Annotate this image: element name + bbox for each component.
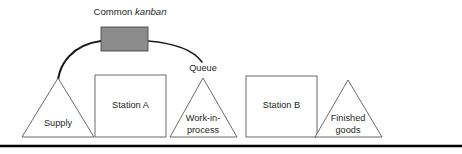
figure-title: Common kanban: [93, 6, 166, 17]
figure-title-italic: kanban: [135, 6, 166, 17]
figure-title-regular: Common: [93, 6, 135, 17]
node-finished-goods-label-line1: Finished: [331, 113, 366, 123]
node-work-in-process-label-line2: process: [187, 125, 220, 135]
kanban-to-queue-connector: [148, 41, 202, 62]
node-supply-label: Supply: [44, 118, 72, 128]
node-finished-goods-label-line2: goods: [335, 125, 360, 135]
node-station-b-label: Station B: [263, 100, 300, 110]
node-work-in-process-label-line1: Work-in-: [186, 113, 221, 123]
kanban-process-flow-figure: Common kanban Queue Supply Station A Wor…: [0, 0, 462, 154]
queue-label: Queue: [189, 63, 217, 73]
node-station-a-label: Station A: [112, 100, 150, 110]
common-kanban-card: [101, 27, 148, 51]
